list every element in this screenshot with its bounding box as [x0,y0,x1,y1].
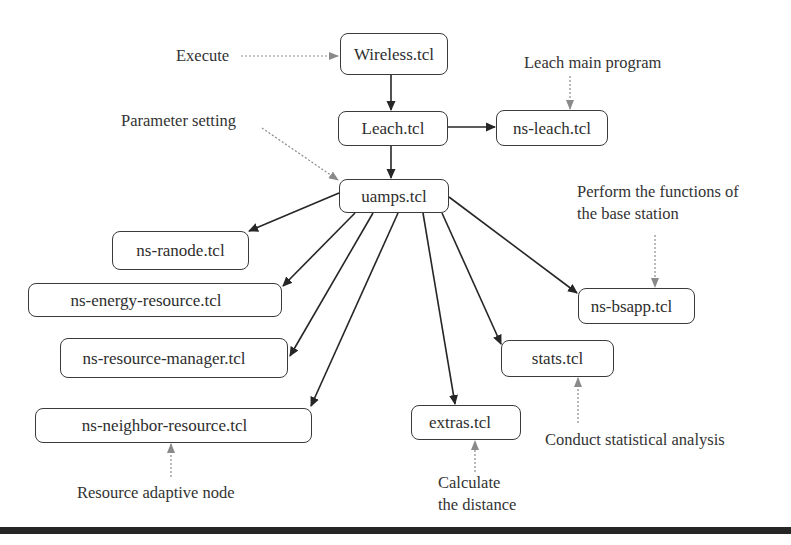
node-label: ns-energy-resource.tcl [70,292,221,309]
edge-uamps-to-ns-bsapp [449,197,577,293]
annotation-calculate-line1: Calculate [438,472,516,494]
node-label: ns-resource-manager.tcl [83,350,246,367]
annotation-calculate-line2: the distance [438,494,516,516]
node-extras: extras.tcl [411,405,521,440]
leach-module-diagram: Wireless.tcl Leach.tcl ns-leach.tcl uamp… [0,0,791,545]
edges-layer [0,0,791,545]
annotation-execute: Execute [176,45,229,67]
edge-uamps-to-extras [423,213,455,404]
node-stats: stats.tcl [501,340,614,377]
annotation-calculate-distance: Calculate the distance [438,472,516,516]
edge-uamps-to-ns-energy-resource [283,213,355,286]
node-label: ns-leach.tcl [513,120,591,137]
node-ns-ranode: ns-ranode.tcl [112,231,249,270]
node-ns-leach: ns-leach.tcl [496,110,608,146]
node-ns-resource-manager: ns-resource-manager.tcl [60,338,288,378]
node-leach: Leach.tcl [338,111,448,146]
annotation-parameter-setting: Parameter setting [121,110,236,132]
node-label: ns-neighbor-resource.tcl [82,417,247,434]
node-label: uamps.tcl [361,188,427,205]
annotation-base-station-line1: Perform the functions of [577,181,739,203]
bottom-divider [0,527,791,534]
edge-uamps-to-stats [442,213,501,344]
annotation-resource-adaptive-node: Resource adaptive node [77,482,235,504]
node-wireless: Wireless.tcl [340,33,448,75]
node-uamps: uamps.tcl [339,179,449,213]
node-label: ns-ranode.tcl [136,242,224,259]
node-ns-bsapp: ns-bsapp.tcl [578,288,695,324]
edge-uamps-to-ns-resource-manager [290,213,373,356]
annotation-statistical-analysis: Conduct statistical analysis [545,429,725,451]
annotation-leach-main-program: Leach main program [524,52,661,74]
edge-parameter-setting-to-uamps [262,128,338,180]
node-ns-neighbor-resource: ns-neighbor-resource.tcl [35,408,312,443]
node-ns-energy-resource: ns-energy-resource.tcl [28,283,282,317]
node-label: extras.tcl [429,414,491,431]
annotation-base-station: Perform the functions of the base statio… [577,181,739,225]
edge-uamps-to-ns-ranode [249,193,339,231]
node-label: Leach.tcl [362,120,425,137]
annotation-base-station-line2: the base station [577,203,739,225]
node-label: stats.tcl [532,350,583,367]
node-label: Wireless.tcl [354,46,434,63]
node-label: ns-bsapp.tcl [591,298,673,315]
edge-uamps-to-ns-neighbor-resource [311,213,398,406]
